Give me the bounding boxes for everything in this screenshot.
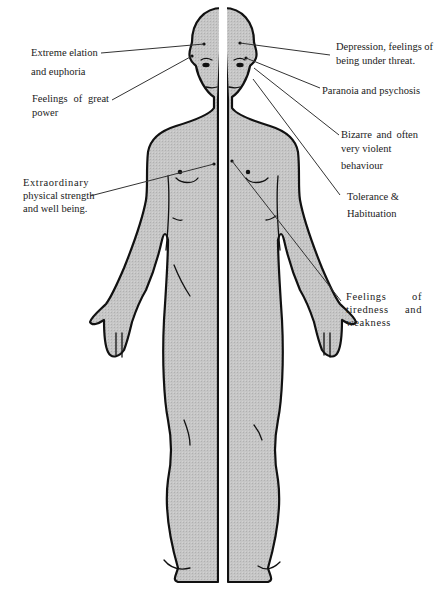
- label-extraordinary-strength: Extraordinary physical strength and well…: [23, 176, 94, 215]
- leader-paranoia: [246, 58, 320, 88]
- label-bizarre-behaviour: Bizarre and often very violent behaviour: [341, 128, 418, 173]
- center-divider: [219, 4, 227, 590]
- label-feelings-of-great-power: Feelings of great power: [32, 92, 109, 120]
- label-tolerance-habituation: Tolerance & Habituation: [347, 188, 399, 222]
- label-extreme-elation: Extreme elation and euphoria: [31, 46, 98, 79]
- leader-power: [112, 56, 192, 100]
- label-tiredness-weakness: Feelings of tiredness and weakness: [346, 290, 422, 329]
- label-paranoia: Paranoia and psychosis: [322, 84, 420, 98]
- body-diagram: Extreme elation and euphoria Feelings of…: [0, 0, 443, 597]
- label-depression: Depression, feelings of being under thre…: [336, 40, 433, 68]
